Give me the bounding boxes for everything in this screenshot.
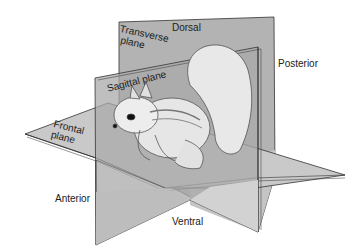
ventral-label: Ventral (172, 217, 203, 227)
dorsal-label: Dorsal (172, 23, 201, 33)
anatomical-planes-diagram: Dorsal Posterior Anterior Ventral Transv… (0, 0, 361, 246)
anterior-label: Anterior (55, 194, 90, 204)
posterior-label: Posterior (278, 59, 318, 69)
